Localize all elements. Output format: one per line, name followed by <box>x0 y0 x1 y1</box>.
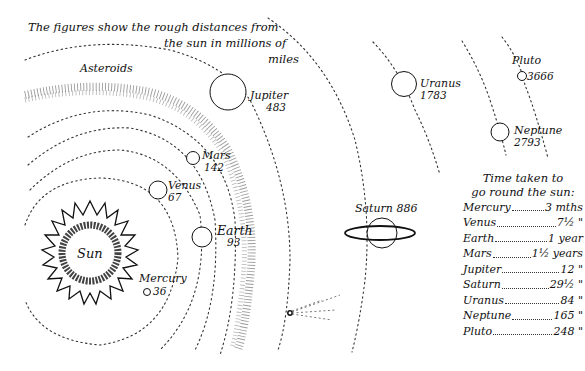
orbit-period-table: Time taken to go round the sun: Mercury3… <box>463 171 583 339</box>
table-row: Pluto248 " <box>463 324 583 340</box>
row-planet: Jupiter <box>463 262 501 278</box>
label-mercury: Mercury <box>139 273 187 285</box>
table-row: Venus7½ " <box>463 215 583 231</box>
planet-mercury-icon <box>144 289 151 296</box>
row-period: 12 " <box>560 262 583 278</box>
label-pluto: Pluto <box>512 55 541 67</box>
distance-pluto: 3666 <box>527 71 554 82</box>
table-row: Earth1 year <box>463 231 583 247</box>
row-period: 84 " <box>560 293 583 309</box>
row-period: 1½ years <box>532 246 583 262</box>
planet-uranus-icon <box>392 72 417 97</box>
planet-venus-icon <box>149 181 167 199</box>
label-jupiter: Jupiter 483 <box>250 90 288 113</box>
table-row: Mars1½ years <box>463 246 583 262</box>
asteroid-belt <box>25 87 252 350</box>
sun-label: Sun <box>77 246 103 261</box>
planet-name: Mars <box>202 150 231 162</box>
row-period: 165 " <box>553 308 583 324</box>
table-heading-1: Time taken to <box>463 171 583 185</box>
planet-name: Saturn <box>355 202 393 215</box>
asteroids-label: Asteroids <box>80 63 133 75</box>
table-heading-2: go round the sun: <box>463 185 583 199</box>
row-planet: Saturn <box>463 277 501 293</box>
planet-saturn-icon <box>345 218 415 248</box>
planet-jupiter-icon <box>210 74 246 110</box>
planet-mars-icon <box>187 152 200 165</box>
planet-name: Venus <box>168 180 201 192</box>
distance-mercury: 36 <box>153 286 166 297</box>
table-row: Saturn29½ " <box>463 277 583 293</box>
planet-neptune-icon <box>491 123 509 141</box>
planet-distance: 93 <box>217 237 253 248</box>
label-saturn: Saturn 886 <box>355 203 417 215</box>
caption-line-2: the sun in millions of <box>164 37 286 49</box>
planet-earth-icon <box>192 227 212 247</box>
row-planet: Mars <box>463 246 492 262</box>
planet-pluto-icon <box>518 72 527 81</box>
planet-name: Neptune <box>514 125 562 137</box>
sun: Sun <box>42 201 138 304</box>
comet-icon <box>288 295 340 320</box>
planet-name: Jupiter <box>250 90 288 102</box>
row-planet: Neptune <box>463 308 511 324</box>
table-row: Uranus84 " <box>463 293 583 309</box>
row-planet: Venus <box>463 215 496 231</box>
row-period: 248 " <box>553 324 583 340</box>
planet-distance: 1783 <box>420 90 461 101</box>
row-planet: Uranus <box>463 293 504 309</box>
planet-distance: 2793 <box>514 137 562 148</box>
orbit-uranus <box>373 42 440 175</box>
row-planet: Mercury <box>463 200 511 216</box>
planet-name: Uranus <box>420 78 461 90</box>
label-earth: Earth 93 <box>217 224 253 248</box>
planet-distance: 142 <box>202 162 231 173</box>
caption-line-1: The figures show the rough distances fro… <box>28 21 279 33</box>
row-period: 7½ " <box>557 215 583 231</box>
planet-distance: 483 <box>250 102 288 113</box>
row-planet: Pluto <box>463 324 492 340</box>
row-planet: Earth <box>463 231 494 247</box>
label-mars: Mars 142 <box>202 150 231 173</box>
row-period: 29½ " <box>550 277 583 293</box>
planet-distance: 886 <box>396 202 417 215</box>
label-uranus: Uranus 1783 <box>420 78 461 101</box>
caption-line-3: miles <box>268 53 299 65</box>
label-neptune: Neptune 2793 <box>514 125 562 148</box>
table-row: Jupiter12 " <box>463 262 583 278</box>
row-period: 3 mths <box>545 200 583 216</box>
table-row: Mercury3 mths <box>463 200 583 216</box>
table-row: Neptune165 " <box>463 308 583 324</box>
row-period: 1 year <box>548 231 583 247</box>
label-venus: Venus 67 <box>168 180 201 203</box>
planet-name: Mercury <box>139 273 187 285</box>
planet-distance: 67 <box>168 192 201 203</box>
